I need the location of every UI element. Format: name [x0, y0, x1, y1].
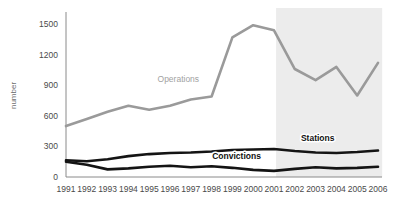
y-tick-label: 900	[44, 80, 58, 90]
x-tick-label: 1995	[140, 184, 159, 194]
x-tick-label: 2004	[327, 184, 346, 194]
x-tick-label: 1991	[57, 184, 76, 194]
y-tick-label: 300	[44, 141, 58, 151]
y-axis-title: number	[9, 82, 18, 109]
x-tick-label: 1992	[77, 184, 96, 194]
x-tick-label: 2005	[348, 184, 367, 194]
series-label-stations: Stations	[301, 133, 335, 143]
x-tick-label: 1997	[181, 184, 200, 194]
y-tick-label: 1200	[39, 50, 58, 60]
series-label-convictions: Convictions	[212, 151, 261, 161]
y-axis-title-text: number	[9, 82, 18, 109]
y-tick-label: 0	[53, 172, 58, 182]
x-tick-label: 2003	[306, 184, 325, 194]
line-chart: 030060090012001500 199119921993199419951…	[0, 0, 396, 210]
x-tick-label: 1998	[202, 184, 221, 194]
x-tick-label: 1999	[223, 184, 242, 194]
y-tick-label: 1500	[39, 19, 58, 29]
y-tick-label: 600	[44, 111, 58, 121]
x-tick-label: 2000	[244, 184, 263, 194]
x-tick-label: 2006	[369, 184, 388, 194]
x-tick-label: 2002	[285, 184, 304, 194]
chart-container: 030060090012001500 199119921993199419951…	[0, 0, 396, 210]
y-tick-labels: 030060090012001500	[39, 19, 58, 182]
x-tick-labels: 1991199219931994199519961997199819992000…	[57, 184, 388, 194]
x-tick-label: 1993	[98, 184, 117, 194]
x-tick-label: 1996	[161, 184, 180, 194]
x-tick-label: 2001	[265, 184, 284, 194]
series-label-operations: Operations	[158, 74, 200, 84]
x-tick-label: 1994	[119, 184, 138, 194]
